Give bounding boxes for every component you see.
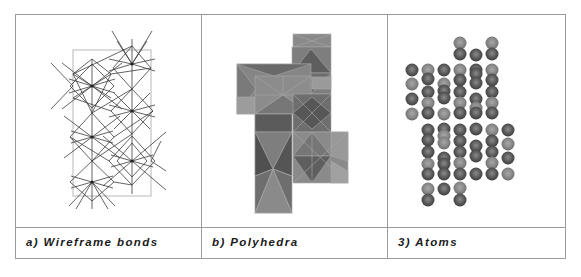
caption-polyhedra: b) Polyhedra	[202, 227, 387, 258]
polyhedra-figure	[202, 15, 387, 227]
panel-atoms: 3) Atoms	[388, 15, 565, 258]
panel-wireframe: a) Wireframe bonds	[16, 15, 202, 258]
atoms-structure-graphic	[388, 15, 565, 227]
caption-wireframe-text: a) Wireframe bonds	[26, 236, 158, 248]
caption-atoms-text: 3) Atoms	[398, 236, 458, 248]
atoms-figure	[388, 15, 565, 227]
polyhedra-structure-graphic	[202, 15, 388, 227]
panel-polyhedra: b) Polyhedra	[202, 15, 388, 258]
wireframe-structure-graphic	[16, 15, 202, 227]
caption-atoms: 3) Atoms	[388, 227, 565, 258]
figure-frame: a) Wireframe bonds	[15, 14, 566, 259]
caption-wireframe: a) Wireframe bonds	[16, 227, 201, 258]
caption-polyhedra-text: b) Polyhedra	[212, 236, 298, 248]
wireframe-figure	[16, 15, 201, 227]
